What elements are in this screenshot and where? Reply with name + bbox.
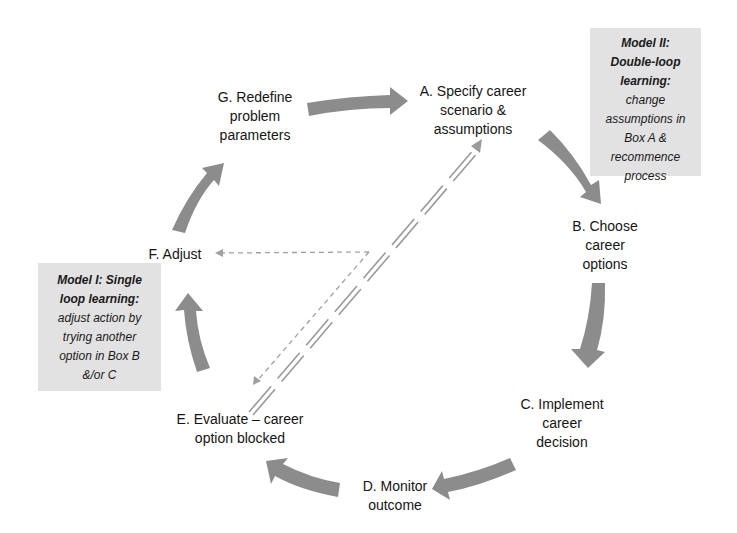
node-a-line: scenario & — [408, 101, 538, 120]
node-b-line: options — [555, 255, 655, 274]
node-g-redefine-parameters: G. Redefine problem parameters — [205, 88, 305, 145]
note-model-ii-body: change — [590, 91, 701, 110]
node-b-line: career — [555, 236, 655, 255]
node-e-evaluate: E. Evaluate – career option blocked — [170, 410, 310, 448]
arrow-d-to-e — [266, 458, 340, 497]
note-model-ii-body: recommence — [590, 148, 701, 167]
note-model-i-single-loop: Model I: Single loop learning: adjust ac… — [38, 263, 161, 391]
node-e-line: option blocked — [170, 429, 310, 448]
node-g-line: G. Redefine — [205, 88, 305, 107]
note-model-i-title: Model I: Single — [38, 271, 161, 290]
arrow-g-to-a — [307, 87, 408, 116]
node-d-line: outcome — [345, 496, 445, 515]
note-model-i-title: loop learning: — [38, 290, 161, 309]
single-loop-lines — [221, 252, 369, 381]
node-d-monitor-outcome: D. Monitor outcome — [345, 477, 445, 515]
arrow-f-to-g — [172, 163, 224, 233]
arrow-b-to-c — [571, 283, 605, 368]
node-c-implement-decision: C. Implement career decision — [507, 395, 617, 452]
node-a-line: A. Specify career — [408, 82, 538, 101]
node-f-line: F. Adjust — [140, 245, 210, 264]
node-b-choose-options: B. Choose career options — [555, 217, 655, 274]
node-a-line: assumptions — [408, 120, 538, 139]
node-c-line: decision — [507, 433, 617, 452]
note-model-i-body: adjust action by — [38, 309, 161, 328]
node-c-line: C. Implement — [507, 395, 617, 414]
node-d-line: D. Monitor — [345, 477, 445, 496]
note-model-i-body: &/or C — [38, 366, 161, 385]
node-a-specify-scenario: A. Specify career scenario & assumptions — [408, 82, 538, 139]
note-model-ii-body: Box A & — [590, 129, 701, 148]
node-e-line: E. Evaluate – career — [170, 410, 310, 429]
double-loop-arrowhead — [471, 139, 482, 153]
node-c-line: career — [507, 414, 617, 433]
single-loop-arrowhead-f — [215, 249, 223, 257]
node-b-line: B. Choose — [555, 217, 655, 236]
note-model-ii-body: assumptions in — [590, 110, 701, 129]
double-loop-line — [249, 148, 479, 415]
note-model-ii-title: Model II: — [590, 34, 701, 53]
note-model-ii-body: process — [590, 167, 701, 186]
note-model-ii-title: learning: — [590, 72, 701, 91]
note-model-ii-title: Double-loop — [590, 53, 701, 72]
node-g-line: parameters — [205, 126, 305, 145]
node-f-adjust: F. Adjust — [140, 245, 210, 264]
note-model-ii-double-loop: Model II: Double-loop learning: change a… — [590, 28, 701, 176]
node-g-line: problem — [205, 107, 305, 126]
arrow-e-to-f — [175, 293, 210, 372]
note-model-i-body: option in Box B — [38, 347, 161, 366]
note-model-i-body: trying another — [38, 328, 161, 347]
